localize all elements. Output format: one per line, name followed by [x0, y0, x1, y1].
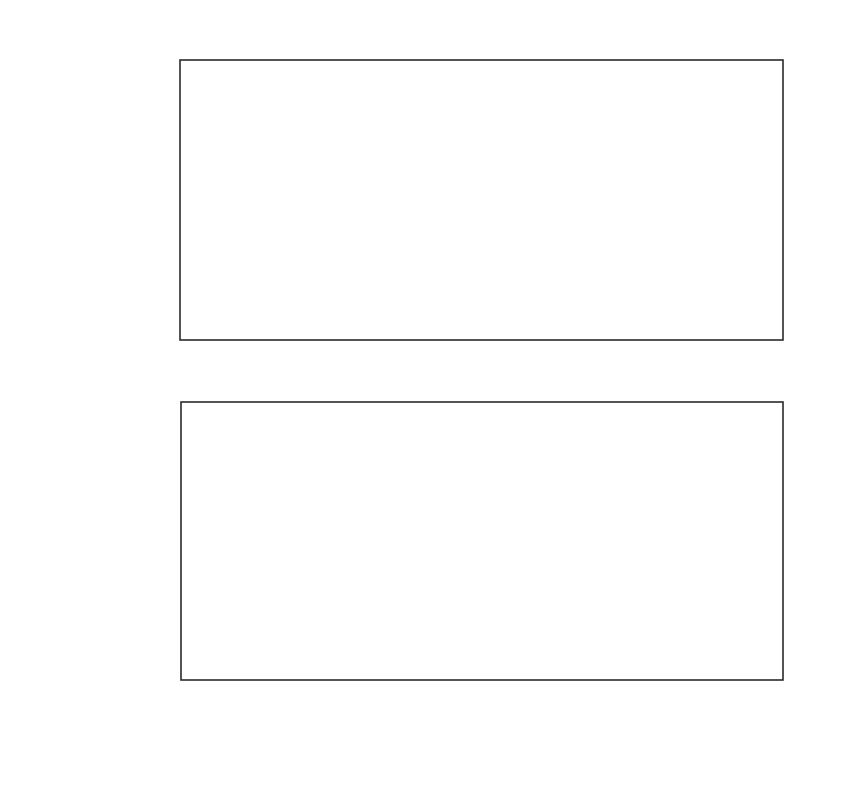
top-panel-frame	[180, 60, 783, 340]
bottom-panel-frame	[181, 402, 783, 680]
top-panel	[0, 0, 783, 340]
figure	[0, 0, 843, 793]
